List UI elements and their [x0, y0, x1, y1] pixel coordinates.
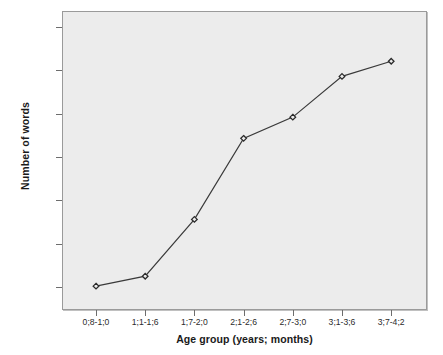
- y-tick-mark: [56, 27, 62, 28]
- x-tick-mark: [342, 310, 343, 316]
- x-axis-title: Age group (years; months): [62, 333, 427, 345]
- x-tick-mark: [96, 310, 97, 316]
- x-tick-mark: [391, 310, 392, 316]
- x-tick-mark: [145, 310, 146, 316]
- y-tick-mark: [56, 157, 62, 158]
- x-tick-mark: [293, 310, 294, 316]
- y-axis-title: Number of words: [19, 66, 31, 226]
- x-tick-mark: [194, 310, 195, 316]
- plot-area: [62, 11, 427, 310]
- y-tick-mark: [56, 244, 62, 245]
- y-tick-mark: [56, 287, 62, 288]
- x-tick-label: 3;7-4;2: [351, 317, 431, 327]
- y-tick-mark: [56, 70, 62, 71]
- y-tick-mark: [56, 200, 62, 201]
- line-chart: Number of words ,00100,00200,00300,00400…: [0, 0, 443, 355]
- x-tick-mark: [244, 310, 245, 316]
- y-tick-mark: [56, 114, 62, 115]
